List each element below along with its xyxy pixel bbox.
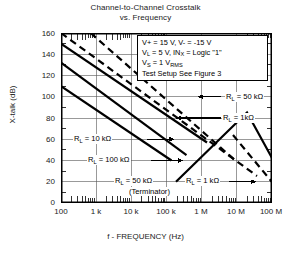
label-rl-1k-top: RL = 1kΩ bbox=[222, 113, 255, 123]
label-rl-50k-term-sub: L bbox=[120, 180, 123, 186]
label-rl-1k-top-val: = 1kΩ bbox=[232, 113, 254, 122]
label-rl-100k-sub: L bbox=[93, 159, 96, 165]
y-tick-160: 160 bbox=[29, 30, 55, 38]
cond-vs-sub: S bbox=[147, 62, 151, 68]
label-rl-1k-bot-val: = 1 kΩ bbox=[195, 176, 219, 185]
label-rl-50k-term-val: = 50 kΩ bbox=[124, 176, 153, 185]
label-rl-10k-sub: L bbox=[79, 138, 82, 144]
cond-logic: = Logic "1" bbox=[184, 48, 222, 57]
label-rl-50k-top-val: = 50 kΩ bbox=[235, 92, 264, 101]
y-tick-60: 60 bbox=[29, 136, 55, 144]
cond-line-1: V+ = 15 V, V- = -15 V bbox=[142, 38, 264, 48]
y-tick-80: 80 bbox=[29, 115, 55, 123]
y-tick-140: 140 bbox=[29, 51, 55, 59]
chart-title-line2: vs. Frequency bbox=[0, 13, 291, 23]
label-rl-10k-val: = 10 kΩ bbox=[83, 134, 112, 143]
cond-line-2: VL = 5 V, INX = Logic "1" bbox=[142, 48, 264, 59]
cond-vl-mid: = 5 V, IN bbox=[150, 48, 180, 57]
cond-rms-sub: RMS bbox=[170, 62, 182, 68]
y-tick-20: 20 bbox=[29, 178, 55, 186]
y-tick-40: 40 bbox=[29, 157, 55, 165]
crosstalk-chart-figure: Channel-to-Channel Crosstalk vs. Frequen… bbox=[0, 0, 291, 259]
x-tick-100M: 100 M bbox=[254, 208, 288, 216]
cond-line-4: Test Setup See Figure 3 bbox=[142, 69, 264, 79]
y-tick-0: 0 bbox=[29, 199, 55, 207]
x-tick-100k: 100 k bbox=[149, 208, 183, 216]
cond-inx-sub: X bbox=[180, 51, 184, 57]
x-tick-10M: 10 M bbox=[219, 208, 253, 216]
x-tick-1k: 1 k bbox=[79, 208, 113, 216]
x-tick-10k: 10 k bbox=[114, 208, 148, 216]
label-rl-50k-top: RL = 50 kΩ bbox=[225, 92, 264, 102]
label-rl-50k-terminator: RL = 50 kΩ bbox=[114, 176, 153, 186]
cond-vl-sub: L bbox=[147, 51, 150, 57]
cond-line-3: VS = 1 VRMS bbox=[142, 58, 264, 69]
page-title: Channel-to-Channel Crosstalk vs. Frequen… bbox=[0, 3, 291, 23]
x-tick-100: 100 bbox=[44, 208, 78, 216]
label-rl-1k-top-sub: L bbox=[228, 117, 231, 123]
label-rl-1k-bot-sub: L bbox=[191, 180, 194, 186]
chart-title-line1: Channel-to-Channel Crosstalk bbox=[0, 3, 291, 13]
y-tick-100: 100 bbox=[29, 93, 55, 101]
label-rl-50k-top-sub: L bbox=[231, 96, 234, 102]
y-axis-label: X-talk (dB) bbox=[8, 70, 17, 140]
cond-vs-mid: = 1 V bbox=[151, 58, 171, 67]
label-rl-100k-val: = 100 kΩ bbox=[97, 155, 130, 164]
label-rl-10k: RL = 10 kΩ bbox=[73, 134, 112, 144]
y-tick-120: 120 bbox=[29, 72, 55, 80]
test-conditions-box: V+ = 15 V, V- = -15 V VL = 5 V, INX = Lo… bbox=[137, 35, 268, 81]
label-rl-100k: RL = 100 kΩ bbox=[87, 155, 131, 165]
label-terminator: (Terminator) bbox=[128, 187, 171, 196]
x-tick-1M: 1 M bbox=[184, 208, 218, 216]
x-axis-label: f - FREQUENCY (Hz) bbox=[0, 232, 291, 241]
label-rl-1k-bottom: RL = 1 kΩ bbox=[185, 176, 220, 186]
